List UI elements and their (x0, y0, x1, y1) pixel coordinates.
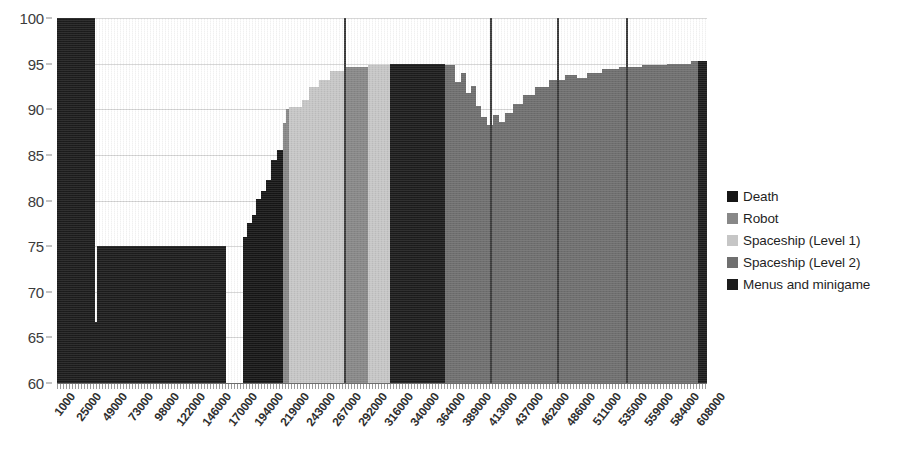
area-segment (309, 87, 319, 383)
area-segment (642, 65, 667, 383)
y-axis-tick-label: 100 (20, 10, 44, 27)
horizontal-gridline (57, 18, 707, 19)
legend-item-label: Spaceship (Level 1) (743, 233, 860, 248)
y-axis-tick-mark (46, 337, 52, 338)
y-axis-tick-mark (46, 109, 52, 110)
y-axis-tick-label: 70 (28, 283, 44, 300)
legend-item-label: Spaceship (Level 2) (743, 255, 860, 270)
area-segment (319, 80, 330, 383)
area-segment (345, 67, 368, 383)
x-axis-tick-label: 73000 (125, 390, 156, 424)
area-segment (698, 61, 707, 383)
area-segment (619, 67, 642, 383)
y-axis-tick-label: 65 (28, 329, 44, 346)
area-segment (330, 71, 345, 383)
legend-swatch-icon (727, 279, 738, 290)
area-segment (602, 69, 619, 383)
y-axis-tick-label: 90 (28, 101, 44, 118)
x-axis-labels: 1000250004900073000980001220001460001700… (57, 390, 707, 465)
legend-item[interactable]: Spaceship (Level 1) (727, 230, 907, 251)
y-axis-tick-label: 85 (28, 146, 44, 163)
y-axis-tick-mark (46, 154, 52, 155)
area-segment (667, 64, 691, 383)
chart-root: 6065707580859095100 10002500049000730009… (0, 0, 912, 467)
vertical-gridline (344, 18, 346, 383)
legend-item-label: Death (743, 189, 779, 204)
legend-item[interactable]: Death (727, 186, 907, 207)
area-segment (535, 87, 549, 383)
area-segment (587, 73, 602, 383)
vertical-gridline (626, 18, 628, 383)
y-axis-tick-label: 80 (28, 192, 44, 209)
area-segment (390, 64, 445, 383)
area-segment (57, 18, 95, 383)
area-segment (368, 65, 390, 383)
y-axis-tick-label: 75 (28, 238, 44, 255)
legend-item[interactable]: Spaceship (Level 2) (727, 252, 907, 273)
y-axis-tick-mark (46, 291, 52, 292)
legend-item-label: Robot (743, 211, 779, 226)
x-axis-tick-label: 49000 (99, 390, 130, 424)
x-axis-rule (57, 383, 707, 389)
legend-swatch-icon (727, 235, 738, 246)
chart-legend: DeathRobotSpaceship (Level 1)Spaceship (… (727, 186, 907, 296)
area-segment (445, 65, 455, 383)
y-axis-tick-mark (46, 246, 52, 247)
plot-area (57, 18, 707, 383)
area-segment (565, 75, 577, 383)
area-segment (577, 78, 587, 383)
y-axis-tick-mark (46, 200, 52, 201)
area-segment (513, 104, 523, 383)
legend-swatch-icon (727, 257, 738, 268)
legend-item-label: Menus and minigame (743, 277, 870, 292)
area-segment (97, 246, 226, 383)
y-axis-tick-mark (46, 18, 52, 19)
legend-swatch-icon (727, 213, 738, 224)
y-axis-tick-mark (46, 63, 52, 64)
area-segment (302, 100, 309, 383)
vertical-gridline (490, 18, 492, 383)
y-axis: 6065707580859095100 (0, 18, 52, 383)
y-axis-tick-label: 60 (28, 375, 44, 392)
vertical-gridline (557, 18, 559, 383)
area-segment (691, 61, 698, 383)
legend-swatch-icon (727, 191, 738, 202)
x-axis-tick-label: 25000 (73, 390, 104, 424)
legend-item[interactable]: Menus and minigame (727, 274, 907, 295)
area-segment (505, 113, 513, 383)
y-axis-tick-label: 95 (28, 55, 44, 72)
area-segment (523, 95, 535, 383)
y-axis-tick-mark (46, 383, 52, 384)
legend-item[interactable]: Robot (727, 208, 907, 229)
area-segment (289, 107, 302, 383)
